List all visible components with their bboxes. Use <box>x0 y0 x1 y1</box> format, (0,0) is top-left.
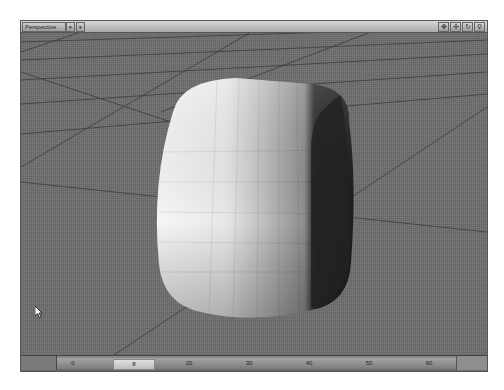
timeline-left-panel <box>21 356 57 370</box>
3d-viewport[interactable]: Perspective ▾ ▾ ✥ ✣ ↻ ⚲ <box>20 20 488 372</box>
tick-label: 30 <box>246 359 253 368</box>
timeline-end-field[interactable] <box>456 356 487 370</box>
tick-label: 40 <box>306 359 313 368</box>
mouse-cursor-icon <box>35 306 43 318</box>
tick-label: 0 <box>71 359 74 368</box>
tick-label: 20 <box>186 359 193 368</box>
view-options-menu-icon[interactable]: ▾ <box>76 22 85 32</box>
view-mode-select[interactable]: Perspective <box>22 22 66 32</box>
timeline-slider[interactable]: 8 0 20 30 40 50 60 <box>57 358 457 369</box>
tick-label: 50 <box>366 359 373 368</box>
zoom-view-icon[interactable]: ⚲ <box>474 22 485 32</box>
timeline-bar: 8 0 20 30 40 50 60 <box>21 355 487 371</box>
viewport-header: Perspective ▾ ▾ ✥ ✣ ↻ ⚲ <box>21 21 487 33</box>
rotate-view-alt-icon[interactable]: ↻ <box>462 22 473 32</box>
move-view-icon[interactable]: ✥ <box>438 22 449 32</box>
viewport-nav-controls: ✥ ✣ ↻ ⚲ <box>438 22 485 32</box>
scene-render[interactable] <box>21 32 487 357</box>
rounded-cube-mesh <box>157 78 354 320</box>
chevron-down-icon[interactable]: ▾ <box>66 22 75 32</box>
tick-label: 60 <box>426 359 433 368</box>
timeline-playhead[interactable]: 8 <box>113 359 155 370</box>
current-frame-label: 8 <box>132 360 135 369</box>
rotate-view-icon[interactable]: ✣ <box>450 22 461 32</box>
